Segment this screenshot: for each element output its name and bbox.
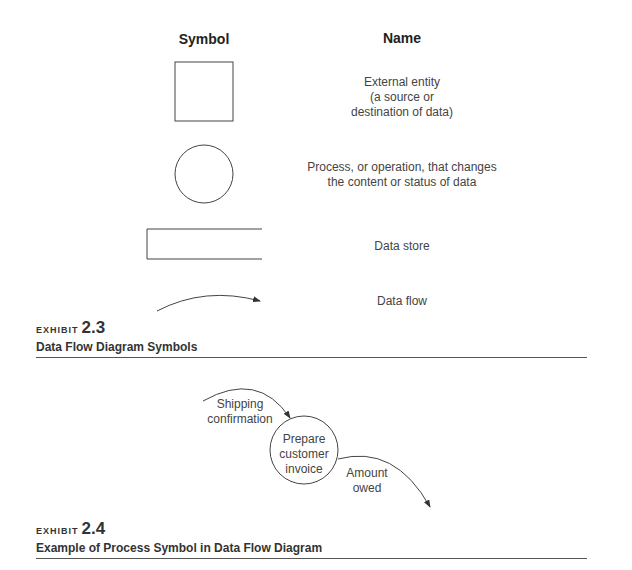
- external-entity-name: External entity (a source or destination…: [302, 75, 502, 120]
- exhibit-tag: EXHIBIT: [36, 325, 79, 335]
- exhibit-2-3-label: EXHIBIT2.3: [36, 318, 105, 338]
- symbol-column-header: Symbol: [164, 31, 244, 47]
- external-entity-symbol: [175, 62, 233, 121]
- exhibit-number: 2.4: [82, 519, 106, 538]
- exhibit-number: 2.3: [82, 318, 106, 337]
- data-store-name: Data store: [342, 239, 462, 254]
- name-column-header: Name: [362, 30, 442, 46]
- exhibit-2-4-caption: Example of Process Symbol in Data Flow D…: [36, 541, 322, 555]
- data-flow-arrow-icon: [157, 295, 260, 311]
- divider: [36, 357, 587, 358]
- process-name: Process, or operation, that changes the …: [292, 160, 512, 190]
- output-flow-label: Amount owed: [337, 466, 397, 496]
- data-flow-name: Data flow: [342, 294, 462, 309]
- exhibit-2-4-label: EXHIBIT2.4: [36, 519, 105, 539]
- process-symbol: [175, 145, 233, 203]
- process-label: Prepare customer invoice: [269, 432, 339, 477]
- input-flow-label: Shipping confirmation: [205, 397, 275, 427]
- data-store-symbol: [147, 229, 262, 259]
- divider: [36, 558, 587, 559]
- exhibit-tag: EXHIBIT: [36, 526, 79, 536]
- exhibit-2-3-caption: Data Flow Diagram Symbols: [36, 340, 197, 354]
